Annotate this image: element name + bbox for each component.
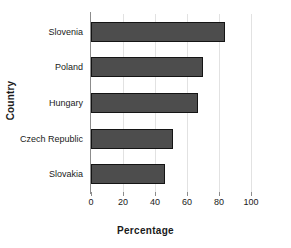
- x-tick-label: 20: [118, 197, 128, 207]
- x-axis: 020406080100: [91, 192, 251, 208]
- bar: [91, 164, 165, 184]
- plot-area: [91, 14, 251, 192]
- x-tick-label: 80: [214, 197, 224, 207]
- bar-fill: [91, 129, 173, 149]
- x-tick-mark: [187, 192, 188, 196]
- bar: [91, 93, 198, 113]
- category-label: Slovenia: [48, 22, 83, 42]
- x-tick-mark: [91, 192, 92, 196]
- x-axis-title: Percentage: [0, 225, 291, 236]
- x-tick-mark: [219, 192, 220, 196]
- x-tick-label: 100: [243, 197, 258, 207]
- category-label: Hungary: [49, 93, 83, 113]
- bar-fill: [91, 22, 225, 42]
- x-tick-mark: [123, 192, 124, 196]
- x-tick-mark: [155, 192, 156, 196]
- bar: [91, 22, 225, 42]
- bar-fill: [91, 164, 165, 184]
- category-label: Slovakia: [49, 164, 83, 184]
- category-label: Czech Republic: [20, 129, 83, 149]
- bar-fill: [91, 57, 203, 77]
- x-tick-mark: [251, 192, 252, 196]
- bar: [91, 57, 203, 77]
- x-tick-label: 60: [182, 197, 192, 207]
- x-tick-label: 40: [150, 197, 160, 207]
- bar-fill: [91, 93, 198, 113]
- bar: [91, 129, 173, 149]
- category-label: Poland: [55, 57, 83, 77]
- y-axis-tick-labels: SloveniaPolandHungaryCzech RepublicSlova…: [0, 14, 87, 192]
- gridline: [251, 14, 252, 192]
- x-tick-label: 0: [88, 197, 93, 207]
- bar-chart: Country SloveniaPolandHungaryCzech Repub…: [0, 0, 291, 248]
